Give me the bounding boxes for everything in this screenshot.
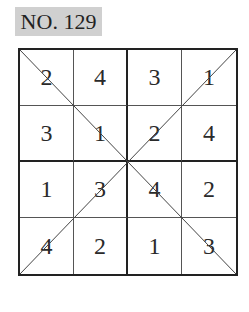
grid-cell-r2c4[interactable]: 4: [182, 106, 236, 162]
grid-cell-r2c3[interactable]: 2: [128, 106, 182, 162]
grid-cell-r1c1[interactable]: 2: [20, 50, 74, 106]
grid-cell-r3c3[interactable]: 4: [128, 162, 182, 218]
grid-cell-r3c4[interactable]: 2: [182, 162, 236, 218]
grid-cell-r1c2[interactable]: 4: [74, 50, 128, 106]
grid-cell-r2c2[interactable]: 1: [74, 106, 128, 162]
grid-cell-r1c4[interactable]: 1: [182, 50, 236, 106]
puzzle-number-label: NO. 129: [15, 7, 102, 36]
grid-cell-r2c1[interactable]: 3: [20, 106, 74, 162]
grid-cell-r1c3[interactable]: 3: [128, 50, 182, 106]
grid-cell-r4c4[interactable]: 3: [182, 218, 236, 274]
grid-cell-r3c1[interactable]: 1: [20, 162, 74, 218]
grid-cell-r4c1[interactable]: 4: [20, 218, 74, 274]
grid-cell-r4c2[interactable]: 2: [74, 218, 128, 274]
grid-cell-r3c2[interactable]: 3: [74, 162, 128, 218]
grid-cell-r4c3[interactable]: 1: [128, 218, 182, 274]
sudoku-grid: 2 4 3 1 3 1 2 4 1 3 4 2 4 2 1 3: [18, 48, 238, 276]
